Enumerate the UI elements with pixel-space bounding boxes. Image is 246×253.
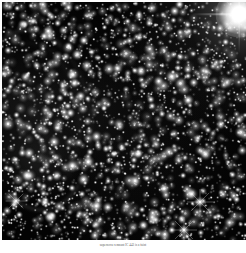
figure-caption: supernova remnant IC 443 is a faint [0, 243, 246, 247]
caption-area: supernova remnant IC 443 is a faint [0, 240, 246, 253]
starfield-canvas [2, 2, 246, 240]
page-sheet: supernova remnant IC 443 is a faint [0, 0, 246, 253]
astronomy-image-plate [2, 2, 246, 240]
